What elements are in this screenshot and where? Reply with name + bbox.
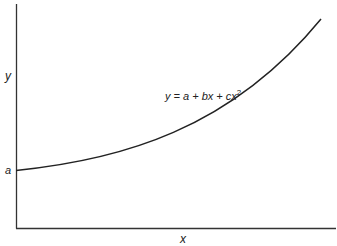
intercept-label: a — [5, 165, 11, 176]
equation-label: y = a + bx + cx2 — [165, 89, 241, 102]
quadratic-diagram — [0, 0, 337, 246]
equation-text: y = a + bx + cx — [165, 90, 237, 102]
x-axis-label: x — [180, 233, 186, 245]
equation-exponent: 2 — [237, 88, 241, 97]
y-axis-label: y — [5, 70, 11, 82]
